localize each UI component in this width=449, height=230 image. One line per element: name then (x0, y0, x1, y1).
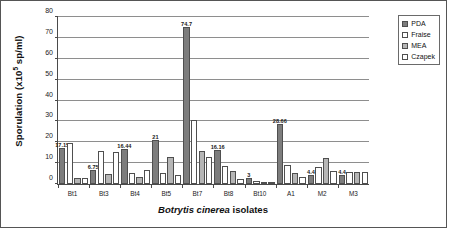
bar-mea-bt4 (136, 177, 142, 184)
bar-fraise-bt5 (160, 173, 166, 184)
legend-label: Fraise (411, 31, 430, 38)
x-axis-category-bt10: Bt10 (244, 189, 275, 201)
bar-group: 74.7 (182, 17, 213, 184)
bar-czapek-a1 (299, 177, 305, 184)
legend-label: Czapek (411, 53, 435, 60)
bar-czapek-bt3 (113, 152, 119, 184)
bar-value-label: 3 (247, 172, 250, 178)
bar-pda-bt10: 3 (246, 178, 252, 184)
bar-fraise-m3 (346, 172, 352, 184)
y-axis-tick-label: 0 (49, 174, 53, 181)
bar-czapek-m3 (362, 172, 368, 184)
legend-item-pda: PDA (402, 18, 435, 29)
x-axis-tick-mark (276, 184, 277, 188)
bar-pda-a1: 28.66 (277, 124, 283, 184)
x-axis-category-bt8: Bt8 (213, 189, 244, 201)
x-axis-tick-mark (245, 184, 246, 188)
bar-czapek-bt10 (268, 182, 274, 184)
bar-czapek-bt5 (175, 175, 181, 184)
bar-mea-bt10 (261, 182, 267, 184)
bar-pda-bt3: 6.75 (90, 170, 96, 184)
bar-groups: 17.156.7516.442174.716.16328.664.44.4 (58, 17, 369, 184)
x-axis-tick-mark (120, 184, 121, 188)
bar-value-label: 28.66 (273, 118, 287, 124)
x-axis-title-species: Botrytis cinerea (158, 204, 230, 215)
bar-mea-a1 (292, 173, 298, 184)
bar-pda-bt4: 16.44 (121, 149, 127, 184)
y-axis-tick-label: 60 (45, 48, 53, 55)
y-axis-title-main: Sporulation (x10 (13, 71, 24, 147)
bar-fraise-bt7 (191, 120, 197, 184)
bar-czapek-bt4 (144, 170, 150, 184)
bar-value-label: 16.44 (117, 143, 131, 149)
bar-czapek-m2 (330, 171, 336, 184)
bar-group: 16.16 (213, 17, 244, 184)
bar-fraise-bt8 (222, 166, 228, 184)
x-axis-category-m3: M3 (338, 189, 369, 201)
bar-mea-bt1 (74, 178, 80, 184)
legend-swatch-pda (402, 21, 408, 27)
bar-mea-m3 (354, 172, 360, 184)
bar-fraise-a1 (284, 165, 290, 184)
bar-group: 28.66 (276, 17, 307, 184)
legend-item-fraise: Fraise (402, 29, 435, 40)
bar-value-label: 74.7 (181, 21, 192, 27)
bar-fraise-bt1 (67, 143, 73, 184)
x-axis-category-bt1: Bt1 (57, 189, 88, 201)
legend-item-czapek: Czapek (402, 51, 435, 62)
x-axis-tick-mark (307, 184, 308, 188)
legend: PDAFraiseMEACzapek (398, 15, 440, 65)
x-axis-category-m2: M2 (307, 189, 338, 201)
plot-area: 01020304050607080 17.156.7516.442174.716… (57, 17, 369, 185)
bar-fraise-bt4 (129, 173, 135, 184)
bar-mea-bt3 (105, 174, 111, 184)
bar-pda-bt8: 16.16 (214, 150, 220, 184)
bar-mea-bt5 (167, 157, 173, 185)
bar-value-label: 16.16 (211, 144, 225, 150)
x-axis-category-bt5: Bt5 (151, 189, 182, 201)
bar-pda-bt5: 21 (152, 140, 158, 184)
chart-figure: Sporulation (x105 sp/ml) 010203040506070… (0, 0, 447, 228)
y-axis-tick-label: 70 (45, 27, 53, 34)
x-axis-category-a1: A1 (275, 189, 306, 201)
y-axis-title: Sporulation (x105 sp/ml) (12, 11, 24, 171)
bar-fraise-bt10 (253, 181, 259, 184)
legend-label: PDA (411, 20, 425, 27)
x-axis-category-bt3: Bt3 (88, 189, 119, 201)
bar-group: 6.75 (89, 17, 120, 184)
bar-group: 17.15 (58, 17, 89, 184)
bar-group: 4.4 (338, 17, 369, 184)
bar-mea-bt7 (199, 151, 205, 184)
x-axis-title: Botrytis cinerea isolates (57, 204, 369, 215)
bar-pda-m2: 4.4 (308, 175, 314, 184)
x-axis-category-bt4: Bt4 (119, 189, 150, 201)
legend-item-mea: MEA (402, 40, 435, 51)
bar-pda-m3: 4.4 (339, 175, 345, 184)
bar-value-label: 4.4 (338, 169, 346, 175)
bar-czapek-bt8 (237, 179, 243, 184)
bar-group: 16.44 (120, 17, 151, 184)
legend-label: MEA (411, 42, 426, 49)
bar-group: 3 (245, 17, 276, 184)
bar-pda-bt7: 74.7 (183, 27, 189, 184)
y-axis-tick-label: 40 (45, 90, 53, 97)
bar-pda-bt1: 17.15 (59, 148, 65, 184)
bar-mea-m2 (323, 158, 329, 184)
y-axis-tick-label: 20 (45, 132, 53, 139)
y-axis-tick-label: 80 (45, 7, 53, 14)
legend-swatch-mea (402, 43, 408, 49)
x-axis-tick-labels: Bt1Bt3Bt4Bt5Bt7Bt8Bt10A1M2M3 (57, 189, 369, 201)
legend-swatch-fraise (402, 32, 408, 38)
y-axis-tick-label: 50 (45, 69, 53, 76)
x-axis-category-bt7: Bt7 (182, 189, 213, 201)
bar-mea-bt8 (230, 171, 236, 184)
x-axis-tick-mark (151, 184, 152, 188)
bar-value-label: 4.4 (307, 169, 315, 175)
bar-czapek-bt1 (82, 178, 88, 184)
bar-value-label: 21 (152, 134, 158, 140)
bar-group: 4.4 (307, 17, 338, 184)
bar-fraise-m2 (315, 167, 321, 184)
bar-fraise-bt3 (98, 151, 104, 184)
x-axis-title-noun: isolates (233, 204, 268, 215)
y-axis-title-tail: sp/ml) (13, 36, 24, 67)
